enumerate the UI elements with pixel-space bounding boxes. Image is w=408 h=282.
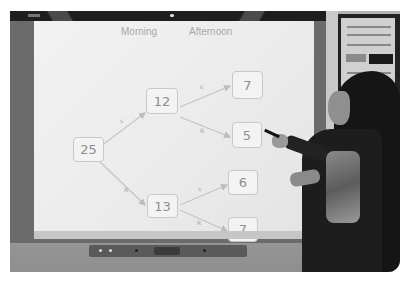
- tray-button[interactable]: [99, 249, 102, 252]
- toolbar-tab-left: [47, 11, 73, 21]
- tree-node-ss[interactable]: 7: [232, 71, 263, 99]
- brand-logo: [28, 14, 40, 17]
- poster-row: [347, 44, 391, 46]
- edge-label-s: s: [120, 117, 123, 124]
- pen-tray[interactable]: [89, 245, 247, 257]
- tree-node-sr[interactable]: 5: [232, 122, 262, 148]
- tree-node-rs[interactable]: 6: [228, 170, 258, 195]
- poster-strip: [346, 54, 366, 62]
- teacher: [280, 71, 400, 272]
- poster-row: [347, 26, 391, 28]
- tray-center-slot: [154, 247, 180, 255]
- tree-node-root[interactable]: 25: [73, 137, 104, 162]
- whiteboard-screen[interactable]: Morning Afternoon 25 12: [34, 21, 314, 231]
- tree-node-morning-s[interactable]: 12: [146, 88, 178, 114]
- poster-block: [369, 54, 393, 64]
- edge-label-r: R: [197, 219, 201, 226]
- tray-slot: [203, 249, 206, 252]
- whiteboard-top-bar: [10, 11, 326, 21]
- edge-label-r: R: [124, 186, 128, 193]
- teacher-face: [328, 91, 350, 125]
- poster-row: [347, 34, 391, 36]
- whiteboard-frame: Morning Afternoon 25 12: [10, 11, 326, 243]
- tray-button[interactable]: [109, 249, 112, 252]
- camera-light: [170, 14, 174, 17]
- toolbar-tab-right: [239, 11, 265, 21]
- classroom-photo: Morning Afternoon 25 12: [10, 11, 400, 272]
- teacher-shirt-print: [326, 151, 360, 223]
- tree-node-morning-r[interactable]: 13: [147, 194, 178, 218]
- tray-slot: [135, 249, 138, 252]
- whiteboard-bottom-frame: [34, 231, 314, 239]
- edge-label-s: s: [200, 83, 203, 90]
- edge-label-r: R: [200, 127, 204, 134]
- edge-label-s: s: [198, 185, 201, 192]
